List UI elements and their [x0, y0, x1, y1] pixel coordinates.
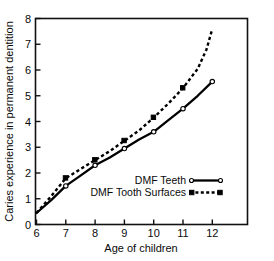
xtick-label-9: 9	[121, 227, 127, 239]
legend-marker-surfaces-start	[190, 190, 194, 194]
legend-marker-dmf-teeth-start	[190, 179, 194, 183]
xtick-label-7: 7	[63, 227, 69, 239]
ytick-label-5: 5	[25, 90, 31, 102]
xtick-label-6: 6	[33, 227, 39, 239]
xtick-label-10: 10	[148, 227, 160, 239]
xtick-label-12: 12	[206, 227, 218, 239]
y-axis-title: Caries experience in permanent dentition	[3, 21, 15, 222]
xtick-label-11: 11	[177, 227, 188, 239]
ytick-label-8: 8	[25, 13, 31, 25]
ytick-label-2: 2	[25, 167, 31, 179]
xtick-label-8: 8	[92, 227, 98, 239]
ytick-label-1: 1	[25, 193, 31, 205]
y-axis-tick-labels: 8 7 6 5 4 3 2 1 0	[25, 13, 31, 231]
ytick-label-0: 0	[25, 219, 31, 231]
x-axis-title: Age of children	[104, 242, 177, 254]
ytick-label-6: 6	[25, 64, 31, 76]
ytick-label-7: 7	[25, 38, 31, 50]
chart-background	[0, 0, 274, 261]
legend-label-dmf-teeth: DMF Teeth	[135, 174, 186, 186]
ytick-label-4: 4	[25, 116, 31, 128]
chart-figure: 8 7 6 5 4 3 2 1 0 6 7 8 9 10 11	[0, 0, 274, 261]
legend-marker-dmf-teeth-end	[219, 179, 223, 183]
caries-experience-line-chart: 8 7 6 5 4 3 2 1 0 6 7 8 9 10 11	[0, 0, 274, 261]
ytick-label-3: 3	[25, 141, 31, 153]
legend-marker-surfaces-end	[218, 190, 222, 194]
legend-label-dmf-tooth-surfaces: DMF Tooth Surfaces	[90, 186, 186, 198]
